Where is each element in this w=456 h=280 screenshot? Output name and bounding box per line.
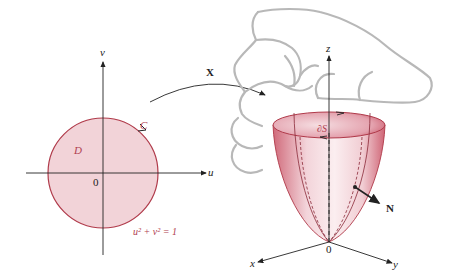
circle-equation: u² + v² = 1 bbox=[133, 227, 177, 237]
diagram-canvas: v u 0 D C u² + v² = 1 X z x y 0 ∂S N bbox=[0, 0, 456, 280]
x-axis bbox=[258, 242, 329, 262]
diagram-graphics bbox=[0, 0, 456, 280]
z-axis-label: z bbox=[326, 43, 330, 54]
xyz-origin-label: 0 bbox=[326, 244, 332, 255]
curve-c-label: C bbox=[140, 120, 147, 131]
uv-plane bbox=[26, 62, 206, 255]
uv-origin-label: 0 bbox=[93, 177, 99, 188]
x-axis-label: x bbox=[250, 258, 255, 269]
region-d-label: D bbox=[74, 145, 82, 156]
normal-label: N bbox=[386, 203, 394, 214]
u-axis-label: u bbox=[208, 167, 214, 178]
mapping-arrow bbox=[150, 84, 265, 102]
y-axis bbox=[329, 242, 392, 263]
v-axis-label: v bbox=[100, 47, 105, 58]
mapping-label: X bbox=[206, 67, 214, 78]
boundary-label: ∂S bbox=[317, 124, 327, 134]
y-axis-label: y bbox=[393, 259, 398, 270]
